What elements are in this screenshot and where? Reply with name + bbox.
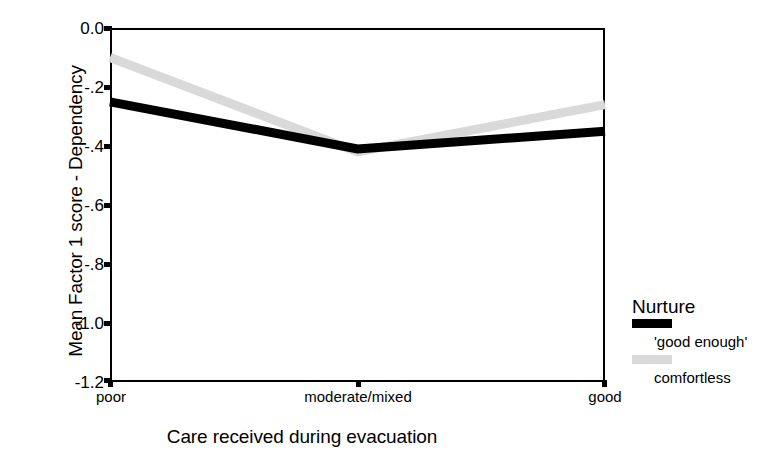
legend-label-comfortless: comfortless xyxy=(654,370,731,386)
legend-title: Nurture xyxy=(632,296,778,317)
legend-label-good-enough: 'good enough' xyxy=(654,334,747,350)
legend-swatch-comfortless xyxy=(632,355,672,364)
legend-item-good-enough: 'good enough' xyxy=(632,319,778,355)
line-chart: Mean Factor 1 score - Dependency 0.0 -.2… xyxy=(0,0,780,462)
legend-item-comfortless: comfortless xyxy=(632,355,778,391)
legend: Nurture 'good enough' comfortless xyxy=(632,296,778,391)
series-line-good-enough xyxy=(110,102,605,149)
series-lines xyxy=(0,0,780,462)
legend-swatch-good-enough xyxy=(632,319,672,328)
